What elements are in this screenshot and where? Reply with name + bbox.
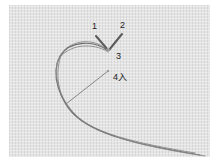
- needle-point-4: [107, 70, 109, 72]
- label-3: 3: [116, 52, 121, 61]
- label-4-in: 4入: [113, 73, 127, 82]
- thread-illustration: [0, 0, 215, 159]
- label-2: 2: [120, 21, 125, 30]
- label-1: 1: [92, 22, 97, 31]
- needle-point-3: [106, 48, 110, 52]
